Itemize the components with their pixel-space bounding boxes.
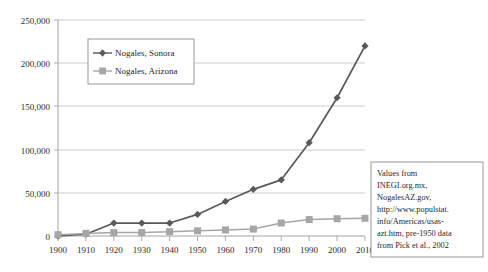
y-label-50000: 50,000 [25,189,50,199]
chart-canvas: 250,000 200,000 150,000 100,000 50,000 0… [0,0,488,272]
x-label-1960: 1960 [216,245,235,255]
legend-label-arizona: Nogales, Arizona [115,66,177,76]
note-line-7: from Pick et al., 2002 [377,241,449,250]
note-line-5: info/Americas/usas- [377,217,444,226]
square-marker-icon [334,215,341,222]
x-label-1950: 1950 [189,245,208,255]
note-line-2: INEGI.org.mx, [377,181,427,190]
y-label-100000: 100,000 [21,146,51,156]
note-line-1: Values from [377,169,418,178]
x-label-1980: 1980 [272,245,291,255]
square-marker-icon [222,226,229,233]
y-label-250000: 250,000 [21,16,51,26]
square-marker-icon [306,216,313,223]
note-line-4: http://www.populstat. [377,205,449,214]
source-note-box: Values from INEGI.org.mx, NogalesAZ.gov,… [371,162,483,257]
x-label-1970: 1970 [244,245,263,255]
note-line-6: azt.htm, pre-1950 data [377,229,452,238]
x-label-1990: 1990 [300,245,319,255]
square-marker-icon [55,231,62,238]
x-label-2000: 2000 [328,245,347,255]
y-label-0: 0 [46,232,51,242]
square-marker-icon [138,229,145,236]
square-marker-icon [194,227,201,234]
x-label-1930: 1930 [133,245,152,255]
x-label-1910: 1910 [77,245,96,255]
square-marker-icon [166,228,173,235]
x-label-1900: 1900 [49,245,68,255]
y-label-200000: 200,000 [21,59,51,69]
square-marker-icon [82,230,89,237]
square-marker-icon [99,68,106,75]
square-marker-icon [278,220,285,227]
note-line-3: NogalesAZ.gov, [377,193,431,202]
square-marker-icon [110,229,117,236]
legend-box [88,39,194,84]
square-marker-icon [250,226,257,233]
x-label-1940: 1940 [161,245,180,255]
square-marker-icon [362,215,369,222]
y-label-150000: 150,000 [21,102,51,112]
legend-label-sonora: Nogales, Sonora [115,48,175,58]
chart-legend[interactable]: Nogales, Sonora Nogales, Arizona [88,39,194,84]
line-chart-figure: 250,000 200,000 150,000 100,000 50,000 0… [0,0,488,272]
x-label-1920: 1920 [105,245,124,255]
